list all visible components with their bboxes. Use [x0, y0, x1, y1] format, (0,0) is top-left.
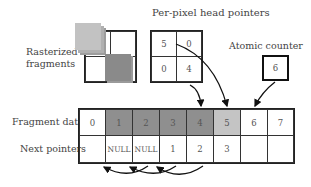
next-pointer-arrow [157, 166, 203, 174]
atomic-counter-arrow [255, 82, 275, 106]
head-pointer-arrow [190, 85, 201, 106]
arrows-layer [0, 0, 311, 187]
head-pointer-arrow [176, 44, 227, 106]
